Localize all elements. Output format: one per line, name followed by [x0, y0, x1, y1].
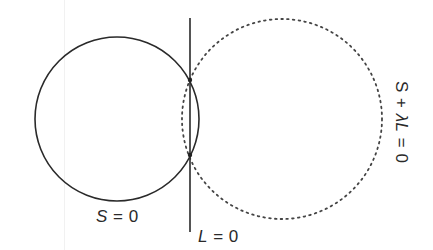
circle-line-family-diagram: [0, 0, 433, 250]
label-family-prefix: S +: [392, 81, 411, 114]
circle-s: [35, 37, 199, 201]
intersection-point: [188, 153, 192, 157]
label-s-variable: S: [96, 207, 108, 226]
label-family-variable: λL: [392, 114, 411, 133]
label-l-variable: L: [198, 227, 208, 246]
label-line-l: L = 0: [198, 228, 239, 245]
label-circle-family: S + λL = 0: [393, 81, 410, 163]
intersection-point: [188, 78, 192, 82]
label-s-equals: = 0: [108, 207, 139, 226]
label-l-equals: = 0: [208, 227, 239, 246]
label-family-equals: = 0: [392, 133, 411, 164]
circle-family-dotted: [182, 19, 382, 219]
label-circle-s: S = 0: [96, 208, 139, 225]
